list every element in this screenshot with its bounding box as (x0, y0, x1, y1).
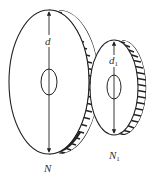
small-gear-teeth-label: N1 (108, 149, 120, 163)
large-gear: d (9, 10, 99, 154)
large-gear-diameter-label: d (45, 35, 51, 47)
small-gear: d1 (90, 40, 146, 135)
large-gear-teeth-label: N (43, 162, 52, 174)
gears-diagram: d (0, 0, 156, 181)
